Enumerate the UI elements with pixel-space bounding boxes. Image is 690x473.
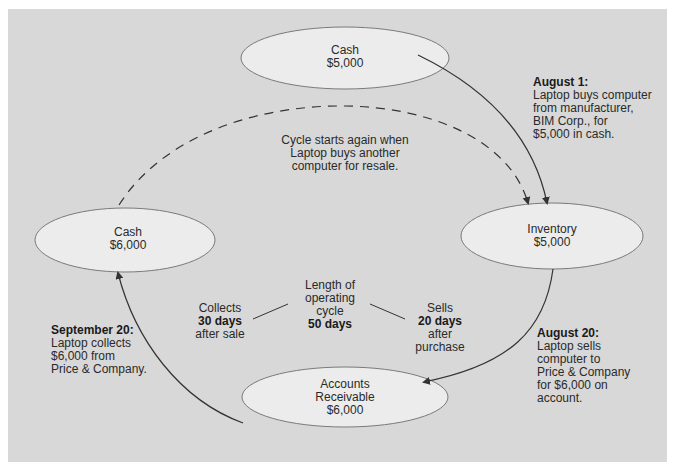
- note-line: computer for resale.: [270, 160, 420, 173]
- collects-period: Collects 30 days after sale: [180, 302, 260, 341]
- node-amount: $6,000: [78, 239, 178, 252]
- collects-suffix: after sale: [180, 328, 260, 341]
- node-amount: $6,000: [295, 404, 395, 417]
- node-amount: $5,000: [502, 236, 602, 249]
- event-line: Price & Company.: [51, 363, 147, 376]
- operating-cycle-length: Length of operating cycle 50 days: [290, 279, 370, 331]
- sells-period: Sells 20 days after purchase: [400, 302, 480, 354]
- node-accounts-receivable: Accounts Receivable $6,000: [295, 378, 395, 417]
- arrow-cash-to-inventory: [418, 55, 547, 203]
- event-line: account.: [537, 392, 630, 405]
- event-september-20: September 20: Laptop collects $6,000 fro…: [51, 324, 147, 376]
- sells-suffix-2: purchase: [400, 341, 480, 354]
- node-cash-start: Cash $5,000: [295, 44, 395, 70]
- event-august-1: August 1: Laptop buys computer from manu…: [533, 76, 652, 141]
- event-line: $5,000 in cash.: [533, 128, 652, 141]
- node-inventory: Inventory $5,000: [502, 223, 602, 249]
- node-cash-end: Cash $6,000: [78, 226, 178, 252]
- length-value: 50 days: [290, 318, 370, 331]
- cycle-restart-note: Cycle starts again when Laptop buys anot…: [270, 134, 420, 173]
- event-august-20: August 20: Laptop sells computer to Pric…: [537, 327, 630, 405]
- node-amount: $5,000: [295, 57, 395, 70]
